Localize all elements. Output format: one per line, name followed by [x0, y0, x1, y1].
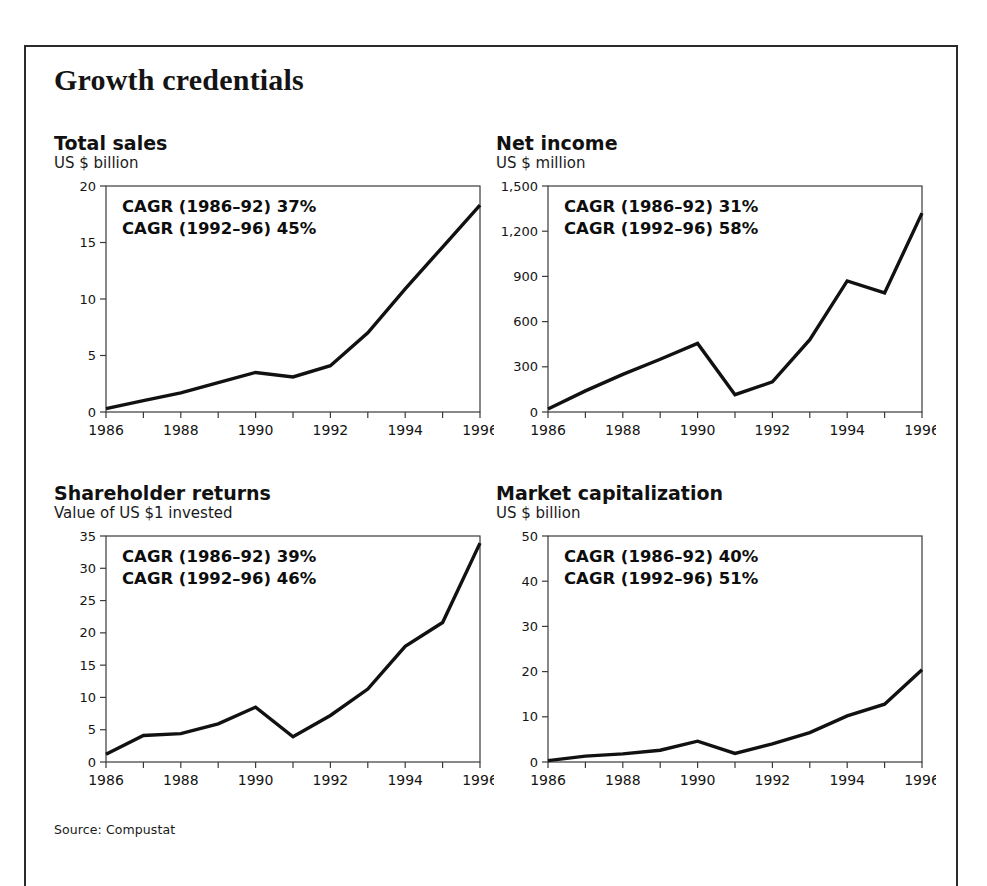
x-tick-label: 1996	[462, 772, 494, 788]
chart-market-capitalization: 01020304050198619881990199219941996CAGR …	[496, 526, 936, 798]
x-tick-label: 1990	[680, 772, 716, 788]
cagr-annotation: CAGR (1986–92) 37%	[122, 197, 317, 216]
cagr-annotation: CAGR (1986–92) 40%	[564, 547, 759, 566]
x-tick-label: 1994	[387, 422, 423, 438]
x-tick-label: 1988	[605, 772, 641, 788]
chart-subtitle-market-capitalization: US $ billion	[496, 504, 936, 522]
y-tick-label: 40	[521, 574, 538, 589]
source-note: Source: Compustat	[54, 822, 175, 837]
data-line	[548, 670, 922, 761]
cagr-annotation: CAGR (1992–96) 51%	[564, 569, 759, 588]
chart-subtitle-net-income: US $ million	[496, 154, 936, 172]
chart-svg-shareholder-returns: 05101520253035198619881990199219941996CA…	[54, 526, 494, 798]
chart-panel-total-sales: Total sales US $ billion 051015201986198…	[54, 132, 494, 462]
chart-subtitle-total-sales: US $ billion	[54, 154, 494, 172]
x-tick-label: 1986	[530, 422, 566, 438]
cagr-annotation: CAGR (1986–92) 39%	[122, 547, 317, 566]
cagr-annotation: CAGR (1992–96) 58%	[564, 219, 759, 238]
y-tick-label: 20	[79, 179, 96, 194]
exhibit-frame: Growth credentials Total sales US $ bill…	[24, 45, 958, 886]
cagr-annotation: CAGR (1986–92) 31%	[564, 197, 759, 216]
x-tick-label: 1988	[163, 422, 199, 438]
y-tick-label: 5	[88, 722, 96, 737]
chart-svg-market-capitalization: 01020304050198619881990199219941996CAGR …	[496, 526, 936, 798]
x-tick-label: 1990	[238, 772, 274, 788]
y-tick-label: 10	[521, 709, 538, 724]
y-tick-label: 10	[79, 690, 96, 705]
chart-title-total-sales: Total sales	[54, 132, 494, 154]
x-tick-label: 1996	[904, 422, 936, 438]
y-tick-label: 0	[88, 405, 96, 420]
chart-title-market-capitalization: Market capitalization	[496, 482, 936, 504]
chart-net-income: 03006009001,2001,50019861988199019921994…	[496, 176, 936, 448]
cagr-annotation: CAGR (1992–96) 45%	[122, 219, 317, 238]
x-tick-label: 1992	[313, 422, 349, 438]
y-tick-label: 20	[79, 625, 96, 640]
chart-svg-net-income: 03006009001,2001,50019861988199019921994…	[496, 176, 936, 448]
y-tick-label: 600	[513, 314, 538, 329]
y-tick-label: 30	[79, 561, 96, 576]
chart-panel-shareholder-returns: Shareholder returns Value of US $1 inves…	[54, 482, 494, 812]
x-tick-label: 1992	[755, 422, 791, 438]
page-title: Growth credentials	[54, 63, 304, 97]
chart-panel-market-capitalization: Market capitalization US $ billion 01020…	[496, 482, 936, 812]
x-tick-label: 1992	[755, 772, 791, 788]
y-tick-label: 35	[79, 529, 96, 544]
y-tick-label: 300	[513, 359, 538, 374]
chart-title-shareholder-returns: Shareholder returns	[54, 482, 494, 504]
x-tick-label: 1988	[605, 422, 641, 438]
y-tick-label: 900	[513, 269, 538, 284]
y-tick-label: 0	[530, 755, 538, 770]
y-tick-label: 20	[521, 664, 538, 679]
x-tick-label: 1990	[238, 422, 274, 438]
x-tick-label: 1986	[88, 422, 124, 438]
y-tick-label: 0	[88, 755, 96, 770]
y-tick-label: 50	[521, 529, 538, 544]
x-tick-label: 1994	[829, 772, 865, 788]
x-tick-label: 1986	[88, 772, 124, 788]
cagr-annotation: CAGR (1992–96) 46%	[122, 569, 317, 588]
chart-shareholder-returns: 05101520253035198619881990199219941996CA…	[54, 526, 494, 798]
x-tick-label: 1990	[680, 422, 716, 438]
y-tick-label: 0	[530, 405, 538, 420]
x-tick-label: 1994	[829, 422, 865, 438]
y-tick-label: 10	[79, 292, 96, 307]
x-tick-label: 1992	[313, 772, 349, 788]
x-tick-label: 1986	[530, 772, 566, 788]
y-tick-label: 30	[521, 619, 538, 634]
x-tick-label: 1996	[904, 772, 936, 788]
chart-title-net-income: Net income	[496, 132, 936, 154]
x-tick-label: 1994	[387, 772, 423, 788]
chart-subtitle-shareholder-returns: Value of US $1 invested	[54, 504, 494, 522]
y-tick-label: 25	[79, 593, 96, 608]
data-line	[548, 213, 922, 409]
chart-svg-total-sales: 05101520198619881990199219941996CAGR (19…	[54, 176, 494, 448]
chart-panel-net-income: Net income US $ million 03006009001,2001…	[496, 132, 936, 462]
y-tick-label: 15	[79, 235, 96, 250]
chart-total-sales: 05101520198619881990199219941996CAGR (19…	[54, 176, 494, 448]
y-tick-label: 1,200	[501, 224, 538, 239]
y-tick-label: 5	[88, 348, 96, 363]
y-tick-label: 15	[79, 658, 96, 673]
x-tick-label: 1996	[462, 422, 494, 438]
y-tick-label: 1,500	[501, 179, 538, 194]
x-tick-label: 1988	[163, 772, 199, 788]
